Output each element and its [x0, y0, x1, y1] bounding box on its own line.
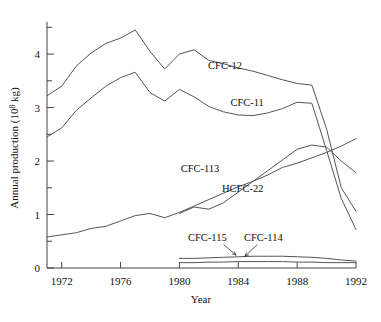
- x-tick-label: 1988: [286, 275, 309, 287]
- y-tick-label: 4: [35, 48, 41, 60]
- series-line-cfc-115: [179, 256, 356, 261]
- cfc114-leader: [245, 244, 258, 256]
- series-label-cfc-12: CFC-12: [208, 60, 242, 71]
- series-label-cfc-115: CFC-115: [188, 232, 227, 243]
- x-tick-label: 1980: [168, 275, 191, 287]
- cfc115-leader: [224, 244, 237, 255]
- x-tick-label: 1972: [51, 275, 73, 287]
- series-label-hcfc-22: HCFC-22: [222, 183, 263, 194]
- y-axis-title-main: Annual production (10: [8, 108, 21, 209]
- y-axis-title-tail: kg): [8, 87, 21, 105]
- x-tick-labels: 197219761980198419881992: [51, 275, 367, 287]
- series-line-cfc-11: [47, 72, 356, 229]
- series-line-cfc-114: [179, 262, 356, 263]
- y-tick-label: 3: [35, 102, 41, 114]
- series-label-cfc-114: CFC-114: [244, 232, 283, 243]
- axis-lines: [47, 22, 356, 268]
- axes-group: [47, 22, 356, 268]
- chart-container: CFC-12CFC-11CFC-113HCFC-22CFC-115CFC-114…: [0, 0, 381, 322]
- x-tick-label: 1984: [227, 275, 250, 287]
- x-tick-label: 1976: [110, 275, 133, 287]
- annotation-leaders: [224, 244, 258, 256]
- series-label-cfc-113: CFC-113: [181, 163, 220, 174]
- series-lines: [47, 30, 356, 263]
- series-labels: CFC-12CFC-11CFC-113HCFC-22CFC-115CFC-114: [181, 60, 284, 243]
- y-tick-label: 1: [35, 209, 41, 221]
- x-axis-title: Year: [191, 293, 212, 305]
- y-tick-label: 0: [35, 262, 41, 274]
- cfc-production-line-chart: CFC-12CFC-11CFC-113HCFC-22CFC-115CFC-114…: [0, 0, 381, 322]
- series-line-cfc-113: [179, 145, 356, 213]
- x-tick-label: 1992: [345, 275, 367, 287]
- y-tick-labels: 01234: [35, 48, 41, 274]
- series-line-cfc-12: [47, 30, 356, 211]
- series-line-hcfc-22: [47, 139, 356, 237]
- y-tick-label: 2: [35, 155, 41, 167]
- series-label-cfc-11: CFC-11: [230, 97, 263, 108]
- y-axis-title: Annual production (108 kg): [8, 87, 22, 209]
